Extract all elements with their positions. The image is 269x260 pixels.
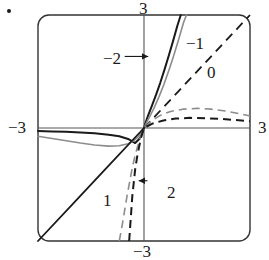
curve-series-−1 [38, 15, 186, 146]
curve-series-−2 [38, 15, 181, 143]
curve-0-positive [144, 15, 250, 128]
x-axis-left-label: −3 [8, 119, 26, 136]
plot-canvas [0, 0, 269, 260]
y-axis-bottom-label: −3 [133, 243, 151, 260]
curve-label-minus-2: −2 [103, 50, 121, 67]
curve-label-2: 2 [167, 184, 176, 201]
figure-container: 3 −3 −3 3 −2 −1 0 1 2 [0, 0, 269, 260]
y-axis-top-label: 3 [139, 0, 148, 17]
curve-series-2 [129, 118, 250, 241]
curve-label-0: 0 [207, 64, 216, 81]
x-axis-right-label: 3 [258, 119, 267, 136]
curve-label-minus-1: −1 [186, 35, 204, 52]
curve-label-1: 1 [103, 192, 112, 209]
